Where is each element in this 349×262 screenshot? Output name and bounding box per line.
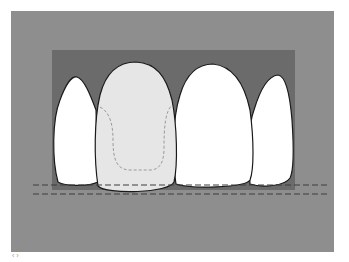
corner-mark: ‹ ›: [12, 252, 19, 259]
tooth-diagram: [0, 0, 349, 262]
